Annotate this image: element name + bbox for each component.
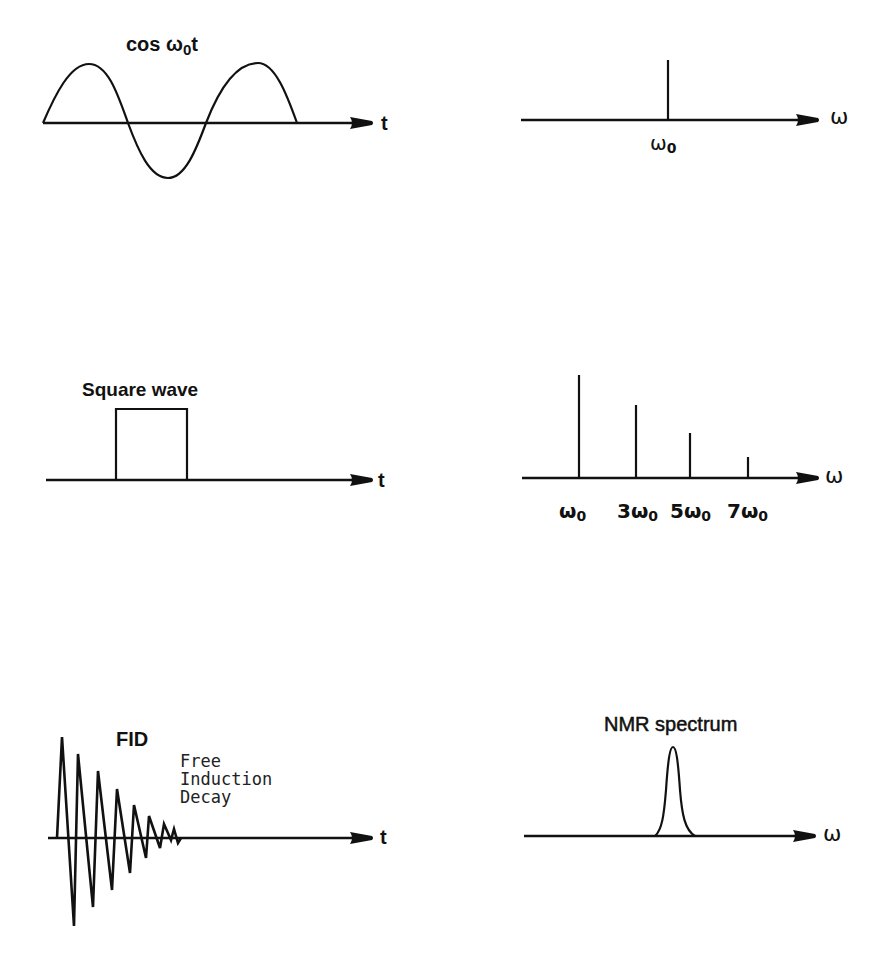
fid-axis-label: t <box>380 827 387 847</box>
fid-title: FID <box>116 729 148 749</box>
cos-title-subscript: 0 <box>183 41 191 58</box>
nmr-axis-label: ω <box>823 823 841 845</box>
fid-annotation-line-1: Free <box>180 751 221 771</box>
nmr-spectrum-plot <box>524 747 815 836</box>
cos-spectrum-tick-w0: ω0 <box>650 133 677 155</box>
square-title: Square wave <box>82 380 198 399</box>
tick-omega: ω <box>650 131 667 155</box>
cos-axis-label: t <box>381 113 388 133</box>
cos-title: cos ω0t <box>126 34 198 57</box>
cos-spectrum-axis-label: ω <box>830 106 848 128</box>
tick-prefix: 5 <box>670 499 684 523</box>
nmr-peak <box>655 747 695 836</box>
square-spectrum-tick-7w0: 7ω0 <box>727 501 768 523</box>
fid-annotation-line-2: Induction <box>180 769 272 789</box>
cos-title-tail: t <box>191 33 198 55</box>
cos-spectrum-plot <box>521 60 818 120</box>
square-spectrum-tick-5w0: 5ω0 <box>670 501 711 523</box>
cos-wave-plot <box>43 63 372 178</box>
square-wave-plot <box>46 409 372 480</box>
square-spectrum-plot <box>522 375 818 478</box>
square-axis-label: t <box>378 470 385 490</box>
diagram-canvas <box>0 0 883 971</box>
cos-title-main: cos ω <box>126 33 183 55</box>
tick-subscript: 0 <box>648 508 658 524</box>
nmr-title: NMR spectrum <box>604 714 737 734</box>
fid-annotation-line-3: Decay <box>180 787 231 807</box>
cosine-curve <box>43 63 297 178</box>
fid-curve <box>57 737 181 926</box>
tick-subscript: 0 <box>576 508 586 524</box>
square-spectrum-tick-3w0: 3ω0 <box>617 501 658 523</box>
tick-subscript: 0 <box>701 508 711 524</box>
tick-prefix: 7 <box>727 499 741 523</box>
tick-prefix: 3 <box>617 499 631 523</box>
square-spectrum-axis-label: ω <box>825 465 843 487</box>
square-spectrum-tick-w0: ω0 <box>559 501 586 523</box>
square-pulse <box>116 409 187 480</box>
tick-subscript: 0 <box>667 140 677 156</box>
tick-subscript: 0 <box>758 508 768 524</box>
